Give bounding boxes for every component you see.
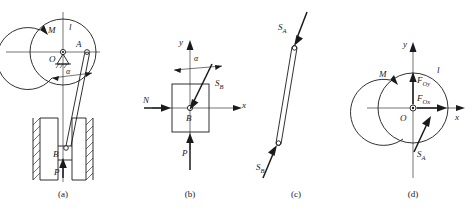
radius-label: l	[69, 23, 72, 32]
panel-a-caption: (a)	[43, 189, 83, 199]
axis-x-label: x	[242, 101, 246, 110]
panel-d-graphics	[365, 0, 472, 214]
axis-y-label: y	[403, 40, 407, 49]
force-sa-label: SA	[278, 23, 286, 34]
panel-b: y x α SB N P B (b)	[130, 0, 255, 214]
force-p-label: P	[182, 149, 188, 158]
point-a-label: A	[76, 40, 82, 49]
panel-d-caption: (d)	[393, 189, 433, 199]
panel-c-graphics	[255, 0, 365, 214]
panel-a-graphics	[0, 0, 130, 214]
panel-a: M l A O α B P (a)	[0, 0, 130, 214]
angle-label: α	[194, 55, 198, 63]
figure-canvas: M l A O α B P (a)	[0, 0, 472, 214]
moment-label: M	[48, 26, 56, 35]
force-fox-label: FOx	[417, 94, 430, 105]
moment-label: M	[379, 70, 387, 79]
force-n-label: N	[143, 96, 149, 105]
force-foy-subscript: Oy	[423, 80, 431, 87]
point-o-label: O	[400, 114, 407, 123]
force-sb-label: SB	[215, 79, 223, 90]
axis-x-label: x	[455, 113, 459, 122]
panel-c: SA SB (c)	[255, 0, 365, 214]
force-sb-subscript: B	[261, 167, 265, 174]
angle-label: α	[66, 68, 70, 76]
panel-d: M l y x O FOy FOx SA (d)	[365, 0, 472, 214]
force-p-label: P	[54, 168, 60, 177]
panel-b-graphics	[130, 0, 255, 214]
point-o-label: O	[49, 55, 56, 64]
panel-c-caption: (c)	[276, 189, 316, 199]
force-foy-label: FOy	[417, 76, 430, 87]
point-b-label: B	[186, 114, 192, 123]
force-sb-subscript: B	[220, 83, 224, 90]
radius-label: l	[437, 66, 440, 75]
force-sb-label: SB	[256, 163, 264, 174]
point-b-label: B	[53, 150, 59, 159]
panel-b-caption: (b)	[170, 189, 210, 199]
force-sa-subscript: A	[283, 27, 287, 34]
force-sa-subscript: A	[422, 154, 426, 161]
axis-y-label: y	[179, 38, 183, 47]
force-sa-label: SA	[417, 150, 425, 161]
force-fox-subscript: Ox	[423, 98, 431, 105]
